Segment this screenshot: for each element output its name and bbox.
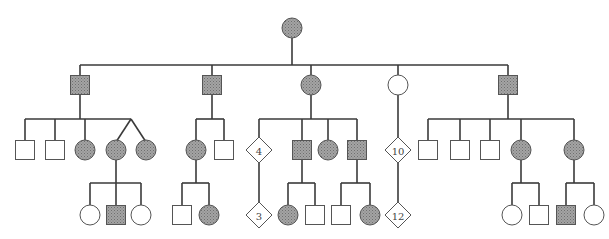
unaffected-male-square: [46, 141, 65, 160]
connector-lines: [25, 38, 594, 206]
individual-III-7: [215, 141, 234, 160]
affected-male-square: [557, 206, 576, 225]
individual-III-4: [106, 140, 126, 160]
affected-male-square: [203, 76, 222, 95]
twin-line: [116, 119, 131, 142]
affected-female-circle: [360, 205, 380, 225]
unaffected-female-circle: [388, 75, 408, 95]
individuals: 410312: [16, 18, 605, 228]
individual-III-6: [186, 140, 206, 160]
individual-II-5: [499, 76, 518, 95]
unaffected-male-square: [215, 141, 234, 160]
pedigree-diagram: 410312: [0, 0, 609, 239]
individual-III-12: 10: [385, 137, 411, 163]
affected-female-circle: [282, 18, 302, 38]
affected-female-circle: [511, 140, 531, 160]
unaffected-male-square: [332, 206, 351, 225]
affected-male-square: [499, 76, 518, 95]
individual-IV-3: [131, 205, 151, 225]
affected-female-circle: [301, 75, 321, 95]
individual-II-3: [301, 75, 321, 95]
affected-male-square: [71, 76, 90, 95]
individual-III-14: [451, 141, 470, 160]
individual-III-13: [419, 141, 438, 160]
individual-III-17: [564, 140, 584, 160]
affected-female-circle: [186, 140, 206, 160]
individual-II-2: [203, 76, 222, 95]
individual-III-15: [481, 141, 500, 160]
affected-female-circle: [199, 205, 219, 225]
affected-male-square: [293, 141, 312, 160]
unaffected-female-circle: [502, 205, 522, 225]
individual-III-5: [136, 140, 156, 160]
unaffected-female-circle: [584, 205, 604, 225]
individual-IV-4: [173, 206, 192, 225]
individual-IV-8: [306, 206, 325, 225]
sibling-count-label: 12: [392, 211, 405, 222]
individual-III-3: [75, 140, 95, 160]
individual-IV-12: [502, 205, 522, 225]
affected-female-circle: [278, 205, 298, 225]
individual-III-10: [318, 140, 338, 160]
affected-female-circle: [564, 140, 584, 160]
individual-II-1: [71, 76, 90, 95]
individual-III-2: [46, 141, 65, 160]
unaffected-male-square: [481, 141, 500, 160]
individual-IV-10: [360, 205, 380, 225]
unaffected-male-square: [451, 141, 470, 160]
individual-III-8: 4: [246, 137, 272, 163]
individual-II-4: [388, 75, 408, 95]
affected-female-circle: [106, 140, 126, 160]
unaffected-male-square: [306, 206, 325, 225]
affected-female-circle: [318, 140, 338, 160]
individual-IV-7: [278, 205, 298, 225]
individual-III-16: [511, 140, 531, 160]
unaffected-female-circle: [131, 205, 151, 225]
individual-IV-5: [199, 205, 219, 225]
individual-IV-15: [584, 205, 604, 225]
individual-I-1: [282, 18, 302, 38]
unaffected-male-square: [419, 141, 438, 160]
individual-III-11: [348, 141, 367, 160]
unaffected-male-square: [530, 206, 549, 225]
affected-female-circle: [136, 140, 156, 160]
unaffected-male-square: [173, 206, 192, 225]
individual-IV-1: [80, 205, 100, 225]
unaffected-male-square: [16, 141, 35, 160]
affected-male-square: [348, 141, 367, 160]
individual-IV-13: [530, 206, 549, 225]
unaffected-female-circle: [80, 205, 100, 225]
sibling-count-label: 3: [256, 211, 262, 222]
sibling-count-label: 10: [392, 146, 405, 157]
sibling-count-label: 4: [256, 146, 262, 157]
affected-female-circle: [75, 140, 95, 160]
twin-line: [131, 119, 146, 142]
individual-IV-9: [332, 206, 351, 225]
individual-IV-14: [557, 206, 576, 225]
individual-III-9: [293, 141, 312, 160]
individual-IV-2: [107, 206, 126, 225]
individual-III-1: [16, 141, 35, 160]
individual-IV-11: 12: [385, 202, 411, 228]
individual-IV-6: 3: [246, 202, 272, 228]
affected-male-square: [107, 206, 126, 225]
